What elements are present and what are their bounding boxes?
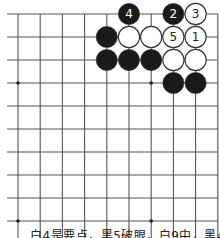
move-number-label: 4 [125,7,133,21]
white-stone: 3 [185,3,206,24]
star-point [149,81,153,85]
star-point [149,219,153,223]
move-number-label: 5 [170,30,178,44]
move-number-label: 1 [192,30,200,44]
diagram-caption: 白4是要点，黑5破眼，白9中，黑4断 [30,229,220,238]
black-stone [118,49,139,70]
black-stone: 4 [118,3,139,24]
white-stone [185,49,206,70]
star-point [16,81,20,85]
black-stone [96,49,117,70]
white-stone [163,49,184,70]
white-stone [141,26,162,47]
white-stone [118,26,139,47]
black-stone [141,49,162,70]
black-stone [163,72,184,93]
go-board-diagram: 42351 [0,0,220,238]
star-point [16,219,20,223]
white-stone: 5 [163,26,184,47]
move-number-label: 3 [192,7,200,21]
black-stone: 2 [163,3,184,24]
caption-text: 白4是要点，黑5破眼，白9中，黑4断 [30,229,220,238]
board-grid [7,14,218,238]
black-stone [96,26,117,47]
white-stone: 1 [185,26,206,47]
black-stone [185,72,206,93]
move-number-label: 2 [170,7,178,21]
